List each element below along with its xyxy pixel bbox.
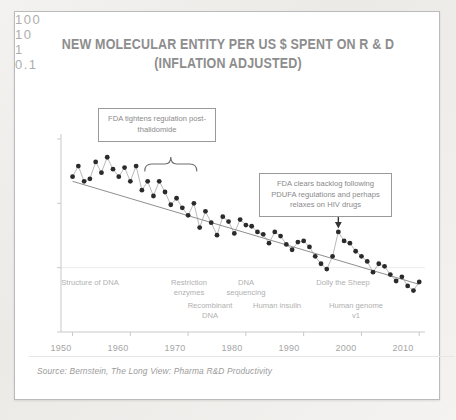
data-point (197, 225, 202, 230)
source-caption: Source: Bernstein, The Long View: Pharma… (37, 366, 272, 376)
annotation-fda-tightens-regulation: FDA tightens regulation post-thalidomide (98, 108, 216, 142)
data-point (180, 205, 185, 210)
x-tick-label-1970: 1970 (155, 343, 195, 353)
data-point (301, 239, 306, 244)
chart-card: NEW MOLECULAR ENTITY PER US $ SPENT ON R… (14, 11, 440, 400)
data-point (157, 179, 162, 184)
data-point (417, 280, 422, 285)
data-point (319, 261, 324, 266)
data-point (128, 179, 133, 184)
data-point (255, 229, 260, 234)
event-label-human-insulin: Human insulin (251, 301, 303, 311)
data-point (174, 196, 179, 201)
data-point (324, 267, 329, 272)
data-point (371, 270, 376, 275)
x-tick-label-1990: 1990 (269, 343, 309, 353)
data-point (122, 165, 127, 170)
data-point (87, 176, 92, 181)
data-point (394, 279, 399, 284)
event-label-restriction-enzymes: Restriction enzymes (161, 278, 217, 297)
data-point (76, 164, 81, 169)
data-point (186, 213, 191, 218)
data-point (203, 209, 208, 214)
data-point (191, 201, 196, 206)
data-point (220, 214, 225, 219)
event-label-recombinant-dna: Recombinant DNA (179, 301, 241, 320)
data-point (226, 219, 231, 224)
data-point (111, 167, 116, 172)
event-label-dolly-the-sheep: Dolly the Sheep (315, 278, 371, 288)
data-point (82, 179, 87, 184)
data-point (313, 254, 318, 259)
data-point (249, 224, 254, 229)
data-point (139, 188, 144, 193)
annotation-fda-clears-backlog: FDA clears backlog following PDUFA regul… (259, 173, 392, 217)
data-point (342, 239, 347, 244)
data-point (347, 241, 352, 246)
data-point (116, 174, 121, 179)
event-label-structure-of-dna: Structure of DNA (53, 278, 127, 288)
screenshot-root: NEW MOLECULAR ENTITY PER US $ SPENT ON R… (0, 0, 456, 420)
data-point (163, 190, 168, 195)
down-arrow-head-icon (335, 222, 342, 229)
event-label-dna-sequencing: DNA sequencing (219, 278, 273, 297)
data-point (365, 259, 370, 264)
data-point (330, 254, 335, 259)
x-tick-label-1960: 1960 (98, 343, 138, 353)
data-point (399, 274, 404, 279)
data-point (238, 217, 243, 222)
x-tick-label-1980: 1980 (212, 343, 252, 353)
data-point (232, 231, 237, 236)
data-point (405, 284, 410, 289)
data-point (376, 261, 381, 266)
data-point (411, 288, 416, 293)
data-point (382, 264, 387, 269)
data-point (388, 272, 393, 277)
data-point (278, 234, 283, 239)
data-point (284, 242, 289, 247)
data-point (145, 179, 150, 184)
data-point (70, 174, 75, 179)
data-point (99, 170, 104, 175)
data-point (272, 229, 277, 234)
data-point (295, 240, 300, 245)
x-tick-label-2010: 2010 (383, 343, 423, 353)
data-point (105, 155, 110, 160)
data-point (134, 164, 139, 169)
data-point (93, 160, 98, 165)
x-tick-label-1950: 1950 (41, 343, 81, 353)
data-point (267, 241, 272, 246)
data-point (243, 223, 248, 228)
curly-brace-icon (145, 157, 197, 171)
data-point (336, 229, 341, 234)
data-point (151, 194, 156, 199)
data-point (307, 245, 312, 250)
data-point (290, 247, 295, 252)
data-point (261, 232, 266, 237)
x-tick-label-2000: 2000 (326, 343, 366, 353)
event-label-human-genome-v1: Human genome v1 (325, 301, 387, 320)
data-point (359, 254, 364, 259)
footer-divider (29, 356, 455, 357)
data-point (353, 249, 358, 254)
data-point (168, 202, 173, 207)
data-point (209, 220, 214, 225)
data-point (215, 233, 220, 238)
